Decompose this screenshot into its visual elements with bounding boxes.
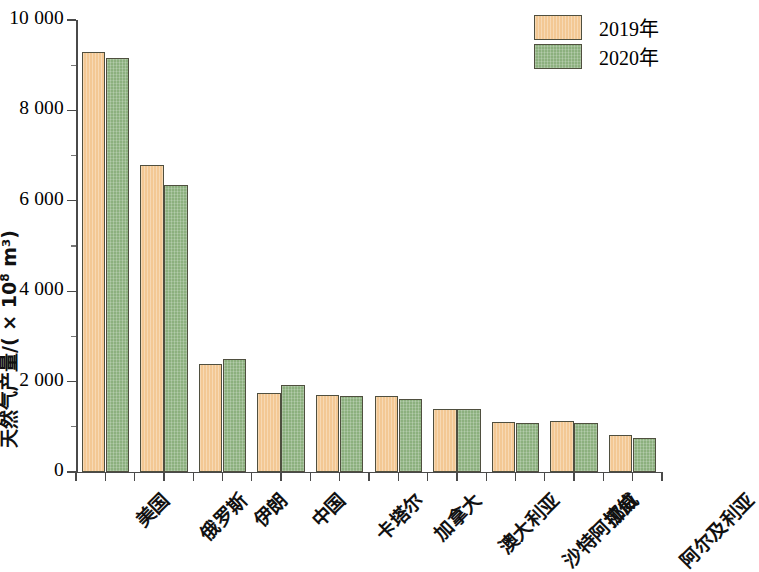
- y-axis-tick-major: [67, 291, 76, 292]
- y-axis-tick-minor: [71, 155, 77, 156]
- bar-2020[interactable]: [574, 423, 598, 472]
- legend-swatch-2020-icon: [534, 44, 582, 69]
- x-axis-category-label: 美国: [128, 486, 174, 532]
- x-axis-tick-boundary: [427, 472, 428, 481]
- x-axis-tick: [105, 472, 106, 481]
- bar-2019[interactable]: [550, 421, 574, 472]
- y-axis-tick-label: 4 000: [19, 278, 64, 300]
- x-axis-tick: [222, 472, 223, 481]
- x-axis-tick-boundary: [603, 472, 604, 481]
- bar-2019[interactable]: [316, 395, 340, 472]
- legend: 2019年 2020年: [534, 14, 659, 72]
- x-axis-tick-boundary: [75, 472, 76, 481]
- legend-item-2019[interactable]: 2019年: [534, 14, 659, 41]
- bar-2019[interactable]: [375, 396, 399, 472]
- x-axis-tick: [573, 472, 574, 481]
- bar-2020[interactable]: [633, 438, 657, 472]
- x-axis-tick: [398, 472, 399, 481]
- y-axis-tick-minor: [71, 336, 77, 337]
- bar-2019[interactable]: [199, 364, 223, 472]
- bar-2020[interactable]: [399, 399, 423, 472]
- y-axis-tick-minor: [71, 65, 77, 66]
- y-axis-tick-major: [67, 381, 76, 382]
- y-axis-tick-label: 10 000: [9, 7, 64, 29]
- x-axis-ticks: [76, 472, 662, 484]
- x-axis-category-label: 伊朗: [246, 486, 292, 532]
- x-axis-tick-boundary: [251, 472, 252, 481]
- bar-2020[interactable]: [457, 409, 481, 472]
- x-axis-category-label: 卡塔尔: [368, 486, 427, 545]
- bar-2019[interactable]: [492, 422, 516, 472]
- x-axis-tick: [339, 472, 340, 481]
- x-axis-tick-boundary: [310, 472, 311, 481]
- y-axis-tick-label: 6 000: [19, 188, 64, 210]
- x-axis-tick: [515, 472, 516, 481]
- legend-item-2020[interactable]: 2020年: [534, 43, 659, 70]
- x-axis-category-label: 俄罗斯: [193, 486, 252, 545]
- bar-2020[interactable]: [223, 359, 247, 472]
- bar-2019[interactable]: [433, 409, 457, 472]
- bar-2020[interactable]: [106, 58, 130, 472]
- y-axis-tick-label: 0: [54, 459, 64, 481]
- x-axis-tick-boundary: [368, 472, 369, 481]
- y-axis-tick-label: 8 000: [19, 97, 64, 119]
- y-axis-tick-minor: [71, 245, 77, 246]
- y-axis-tick-major: [67, 19, 76, 20]
- legend-swatch-2019-icon: [534, 15, 582, 40]
- y-axis-tick-label: 2 000: [19, 369, 64, 391]
- x-axis-category-label: 加拿大: [427, 486, 486, 545]
- legend-label-2019: 2019年: [599, 13, 659, 42]
- x-axis-tick: [456, 472, 457, 481]
- x-axis-category-label: 阿尔及利亚: [673, 486, 759, 572]
- x-axis-tick-boundary: [193, 472, 194, 481]
- bar-2019[interactable]: [140, 165, 164, 472]
- plot-area: [76, 20, 662, 472]
- bar-2019[interactable]: [82, 52, 106, 472]
- y-axis-tick-major: [67, 200, 76, 201]
- x-axis-tick-boundary: [134, 472, 135, 481]
- x-axis-tick: [632, 472, 633, 481]
- bar-2019[interactable]: [609, 435, 633, 472]
- legend-label-2020: 2020年: [599, 42, 659, 71]
- x-axis-tick: [280, 472, 281, 481]
- x-axis-tick-boundary: [486, 472, 487, 481]
- x-axis-tick: [163, 472, 164, 481]
- bar-2020[interactable]: [164, 185, 188, 472]
- bar-2020[interactable]: [516, 423, 540, 472]
- y-axis-tick-labels: 02 0004 0006 0008 00010 000: [0, 20, 64, 472]
- bar-2020[interactable]: [340, 396, 364, 472]
- x-axis-category-label: 中国: [304, 486, 350, 532]
- bar-2020[interactable]: [281, 385, 305, 472]
- y-axis-tick-major: [67, 110, 76, 111]
- y-axis-tick-minor: [71, 426, 77, 427]
- bar-2019[interactable]: [257, 393, 281, 472]
- x-axis-category-label: 澳大利亚: [491, 486, 564, 559]
- x-axis-tick-boundary: [544, 472, 545, 481]
- x-axis-tick-boundary: [661, 472, 662, 481]
